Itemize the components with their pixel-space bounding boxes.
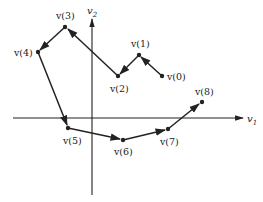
- point-v8: [200, 100, 204, 104]
- label-v5: v(5): [62, 135, 82, 146]
- trajectory-diagram: v1 v2 v(0) v(1) v(2) v(3) v(4) v(5) v(6)…: [0, 0, 263, 202]
- horizontal-axis-label: v1: [247, 113, 257, 127]
- label-v3: v(3): [55, 10, 75, 21]
- point-v4: [36, 50, 40, 54]
- label-v2: v(2): [109, 83, 129, 94]
- label-v0: v(0): [166, 71, 186, 82]
- point-v6: [121, 138, 125, 142]
- label-v4: v(4): [13, 47, 33, 58]
- segment-6-7: [123, 130, 165, 140]
- point-v1: [137, 53, 141, 57]
- segment-7-8: [168, 104, 199, 129]
- segment-2-3: [68, 29, 118, 76]
- label-v6: v(6): [113, 146, 133, 157]
- label-v7: v(7): [159, 136, 179, 147]
- label-v8: v(8): [194, 86, 214, 97]
- segment-1-2: [120, 55, 139, 74]
- label-v1: v(1): [130, 38, 150, 49]
- segment-0-1: [141, 57, 162, 76]
- point-v5: [66, 126, 70, 130]
- point-v7: [166, 127, 170, 131]
- segment-4-5: [38, 52, 67, 125]
- point-v0: [160, 74, 164, 78]
- point-v2: [116, 74, 120, 78]
- segment-3-4: [40, 27, 65, 50]
- point-v3: [63, 25, 67, 29]
- vertical-axis-label: v2: [87, 5, 98, 19]
